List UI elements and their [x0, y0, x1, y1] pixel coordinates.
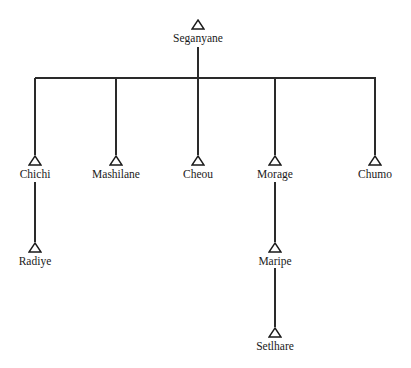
node-maripe: Maripe — [235, 242, 315, 267]
node-label: Seganyane — [158, 32, 238, 44]
descent-line-morage — [274, 78, 276, 155]
node-label: Chumo — [335, 168, 411, 180]
node-label: Radiye — [0, 255, 75, 267]
male-triangle-icon — [191, 19, 205, 30]
male-triangle-icon — [268, 155, 282, 166]
node-chichi: Chichi — [0, 155, 75, 180]
male-triangle-icon — [368, 155, 382, 166]
descent-line-chumo — [374, 78, 376, 155]
descent-line-maripe — [274, 182, 276, 242]
descent-line-radiye — [34, 182, 36, 242]
sibling-bar-line — [35, 77, 376, 79]
node-cheou: Cheou — [158, 155, 238, 180]
male-triangle-icon — [28, 155, 42, 166]
male-triangle-icon — [28, 242, 42, 253]
node-label: Morage — [235, 168, 315, 180]
male-triangle-icon — [268, 327, 282, 338]
node-setlhare: Setlhare — [235, 327, 315, 352]
descent-line-setlhare — [274, 268, 276, 327]
male-triangle-icon — [268, 242, 282, 253]
node-label: Mashilane — [76, 168, 156, 180]
node-mashilane: Mashilane — [76, 155, 156, 180]
node-label: Maripe — [235, 255, 315, 267]
node-label: Chichi — [0, 168, 75, 180]
node-seganyane: Seganyane — [158, 19, 238, 44]
node-chumo: Chumo — [335, 155, 411, 180]
root-descent-line — [197, 47, 199, 79]
descent-line-cheou — [197, 78, 199, 155]
node-morage: Morage — [235, 155, 315, 180]
node-radiye: Radiye — [0, 242, 75, 267]
descent-line-mashilane — [115, 78, 117, 155]
node-label: Cheou — [158, 168, 238, 180]
descent-line-chichi — [34, 78, 36, 155]
male-triangle-icon — [191, 155, 205, 166]
kinship-diagram: Seganyane Chichi Mashilane Cheou Morage … — [0, 0, 411, 368]
male-triangle-icon — [109, 155, 123, 166]
node-label: Setlhare — [235, 340, 315, 352]
